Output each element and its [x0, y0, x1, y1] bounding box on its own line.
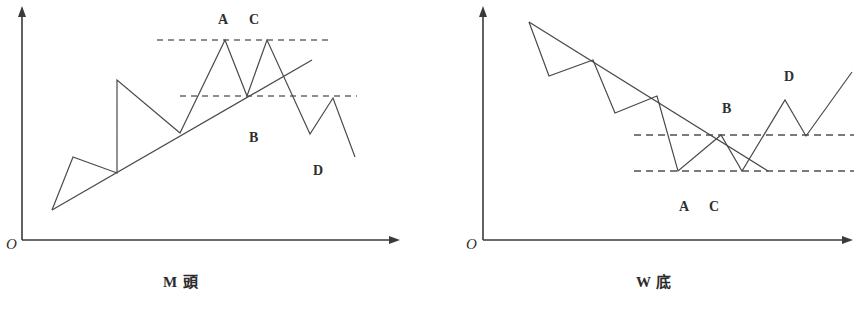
x-axis-arrow-left [389, 236, 400, 244]
origin-label-left: O [6, 236, 17, 253]
panel-m-top [18, 6, 400, 244]
point-label-a-right: A [679, 199, 689, 215]
point-label-b-right: B [722, 101, 731, 117]
y-axis-arrow-right [479, 6, 487, 17]
point-label-a-left: A [218, 12, 228, 28]
downtrend-line-right [529, 22, 768, 171]
y-axis-arrow-left [18, 6, 26, 17]
caption-m-top: M 頭 [163, 270, 199, 291]
caption-w-bottom: W 底 [636, 270, 672, 291]
uptrend-line-left [52, 60, 312, 210]
point-label-d-left: D [313, 163, 323, 179]
pattern-figure: O A C B D M 頭 O B D A C W 底 [0, 0, 856, 312]
point-label-b-left: B [249, 130, 258, 146]
point-label-d-right: D [784, 69, 794, 85]
x-axis-arrow-right [842, 236, 853, 244]
point-label-c-right: C [709, 199, 719, 215]
pattern-figure-canvas [0, 0, 856, 312]
price-line-right [529, 22, 852, 171]
panel-w-bottom [479, 6, 854, 244]
origin-label-right: O [466, 236, 477, 253]
point-label-c-left: C [249, 12, 259, 28]
